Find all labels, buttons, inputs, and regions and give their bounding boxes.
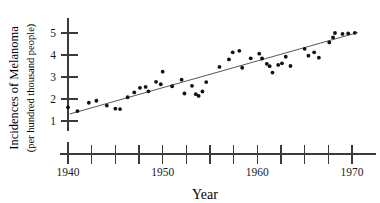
data-point-11: [147, 89, 151, 93]
data-point-36: [284, 55, 288, 59]
y-tick-label-3: 3: [50, 71, 56, 83]
data-point-7: [126, 95, 130, 99]
data-point-14: [161, 70, 165, 74]
data-point-35: [280, 61, 284, 65]
x-tick-label-1940: 1940: [57, 166, 80, 178]
y-tick-label-1: 1: [50, 115, 56, 127]
data-point-38: [303, 47, 307, 51]
data-point-46: [346, 32, 350, 36]
data-point-23: [218, 65, 222, 69]
data-point-10: [144, 85, 148, 89]
data-point-30: [260, 57, 264, 61]
y-tick-labels: 12345: [50, 27, 56, 127]
data-point-12: [154, 80, 158, 84]
data-point-0: [66, 105, 70, 109]
x-axis-title: Year: [192, 187, 218, 202]
data-point-25: [231, 50, 235, 54]
trend-line: [70, 33, 358, 114]
data-point-26: [237, 49, 241, 53]
data-point-15: [170, 84, 174, 88]
data-point-41: [317, 56, 321, 60]
melanoma-incidence-scatter-chart: 1940195019601970 12345 Year Incidences o…: [0, 0, 380, 203]
x-axis: [60, 145, 376, 164]
y-axis: [61, 18, 78, 160]
data-point-4: [105, 104, 109, 108]
data-point-47: [353, 31, 357, 35]
data-point-3: [95, 99, 99, 103]
data-point-8: [132, 91, 136, 95]
data-points: [66, 31, 357, 113]
data-point-42: [327, 41, 331, 45]
data-point-27: [240, 66, 244, 70]
data-point-32: [268, 64, 272, 68]
data-point-6: [118, 107, 122, 111]
x-tick-label-1970: 1970: [341, 166, 364, 178]
data-point-22: [204, 80, 208, 84]
data-point-5: [113, 107, 117, 111]
y-tick-label-5: 5: [50, 27, 56, 39]
data-point-33: [271, 71, 275, 75]
data-point-1: [76, 109, 80, 113]
x-tick-labels: 1940195019601970: [57, 166, 364, 178]
y-axis-subtitle: (per hundred thousand people): [25, 23, 37, 152]
data-point-40: [312, 50, 316, 54]
data-point-21: [201, 90, 205, 94]
data-point-43: [331, 36, 335, 40]
chart-canvas: 1940195019601970 12345 Year Incidences o…: [0, 0, 380, 203]
data-point-16: [180, 78, 184, 82]
y-tick-label-2: 2: [50, 93, 56, 105]
data-point-18: [190, 84, 194, 88]
data-point-17: [183, 92, 187, 96]
x-tick-label-1960: 1960: [246, 166, 269, 178]
regression-line: [70, 33, 358, 114]
data-point-24: [227, 58, 231, 62]
data-point-45: [341, 32, 345, 36]
data-point-28: [249, 56, 253, 60]
data-point-20: [197, 94, 201, 98]
data-point-13: [159, 82, 163, 86]
data-point-34: [276, 63, 280, 67]
data-point-39: [307, 54, 311, 58]
x-tick-label-1950: 1950: [151, 166, 174, 178]
y-tick-label-4: 4: [50, 49, 56, 61]
data-point-29: [257, 52, 261, 56]
data-point-37: [289, 64, 293, 68]
data-point-2: [87, 101, 91, 105]
data-point-9: [138, 86, 142, 90]
data-point-44: [333, 31, 337, 35]
y-axis-title: Incidences of Melanoma: [7, 26, 21, 150]
